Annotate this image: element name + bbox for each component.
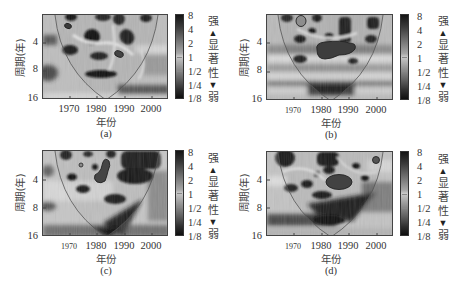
x-tick-1990: 1990 [338,105,359,115]
colorbar-tick: 2 [417,40,422,50]
significance-label-char: 性 [207,68,219,79]
y-tick-16: 16 [246,231,262,241]
colorbar-tick: 8 [188,11,193,21]
colorbar-tick: 1/2 [417,68,430,78]
colorbar-tick: 1/2 [188,204,201,214]
wavelet-heatmap-a [43,15,168,99]
y-tick-8: 8 [22,203,38,213]
colorbar-tick: 2 [188,176,193,186]
arrow-up-icon: ▲ [437,29,449,38]
wavelet-heatmap-b [267,15,393,100]
colorbar-tick: 1 [417,190,422,200]
y-tick-4: 4 [246,37,262,47]
arrow-down-icon: ▼ [207,81,219,90]
wavelet-plot-d [266,151,393,236]
significance-label-char: 著 [437,54,449,65]
x-tick-1990: 1990 [338,241,359,251]
arrow-up-icon: ▲ [207,29,219,38]
panel-caption-b: (b) [325,129,337,140]
y-tick-16: 16 [22,93,38,103]
significance-label-char: 显 [437,40,449,51]
x-tick-1980: 1980 [311,241,332,251]
significance-label-char: 显 [207,40,219,51]
significance-strong-label: 强 [437,154,449,165]
colorbar-tick: 1/4 [417,82,430,92]
x-tick-1990: 1990 [114,241,135,251]
colorbar-tick: 1/2 [188,67,201,77]
x-tick-2000: 2000 [366,105,387,115]
y-tick-16: 16 [22,231,38,241]
panel-caption-c: (c) [100,265,112,276]
colorbar-tick: 2 [417,176,422,186]
colorbar-tick: 1/2 [417,204,430,214]
significance-strong-label: 强 [437,16,449,27]
y-tick-16: 16 [246,94,262,104]
x-tick-1980: 1980 [86,104,107,114]
y-tick-4: 4 [22,37,38,47]
x-axis-label: 年份 [321,251,341,266]
x-axis-label: 年份 [96,114,116,129]
significance-label-char: 著 [207,54,219,65]
wavelet-plot-b [266,14,393,100]
y-tick-4: 4 [22,175,38,185]
colorbar-tick: 1 [188,190,193,200]
x-axis-label: 年份 [96,251,116,266]
panel-b: 周期(年) 4 8 16 [224,0,455,145]
panel-caption-d: (d) [325,265,337,276]
significance-weak-label: 弱 [437,92,449,103]
colorbar-tick: 1/8 [188,232,201,242]
arrow-up-icon: ▲ [207,166,219,175]
significance-label-char: 显 [437,178,449,189]
panel-d: 周期(年) 4 8 16 [224,145,455,290]
significance-label-char: 性 [437,206,449,217]
colorbar-tick: 1/4 [188,218,201,228]
colorbar-tick: 4 [188,162,193,172]
colorbar-tick: 8 [188,148,193,158]
y-tick-8: 8 [22,64,38,74]
x-tick-1980: 1980 [86,241,107,251]
x-tick-1990: 1990 [114,104,135,114]
colorbar-tick: 1/4 [417,218,430,228]
colorbar-tick: 1/8 [188,94,201,104]
x-tick-1970: 1970 [285,106,301,116]
significance-label-char: 性 [207,205,219,216]
significance-label-char: 著 [207,191,219,202]
colorbar-d [400,151,409,236]
significance-weak-label: 弱 [207,92,219,103]
colorbar-b [400,14,409,100]
colorbar-tick: 1 [188,53,193,63]
wavelet-heatmap-d [267,152,393,236]
significance-strong-label: 强 [207,153,219,164]
panel-c: 周期(年) 4 8 16 [0,145,231,290]
x-axis-label: 年份 [321,115,341,130]
colorbar-tick: 8 [417,148,422,158]
x-tick-2000: 2000 [366,241,387,251]
x-tick-1970: 1970 [285,242,301,252]
significance-weak-label: 弱 [437,230,449,241]
x-tick-1980: 1980 [311,105,332,115]
colorbar-tick: 4 [417,162,422,172]
colorbar-tick: 1/8 [417,232,430,242]
panel-a: 周期(年) 4 8 16 [0,0,231,145]
arrow-down-icon: ▼ [207,218,219,227]
significance-strong-label: 强 [207,16,219,27]
significance-weak-label: 弱 [207,229,219,240]
arrow-down-icon: ▼ [437,219,449,228]
significance-label-char: 显 [207,177,219,188]
panel-caption-a: (a) [100,128,112,139]
colorbar-tick: 1 [417,54,422,64]
colorbar-c [175,150,184,236]
colorbar-tick: 4 [188,25,193,35]
colorbar-tick: 4 [417,26,422,36]
x-tick-2000: 2000 [141,241,162,251]
x-tick-1970: 1970 [61,242,77,252]
arrow-down-icon: ▼ [437,81,449,90]
colorbar-tick: 1/4 [188,81,201,91]
wavelet-plot-c [42,150,168,236]
significance-label-char: 著 [437,192,449,203]
arrow-up-icon: ▲ [437,167,449,176]
wavelet-plot-a [42,14,168,99]
colorbar-tick: 2 [188,39,193,49]
significance-label-char: 性 [437,68,449,79]
y-tick-8: 8 [246,203,262,213]
